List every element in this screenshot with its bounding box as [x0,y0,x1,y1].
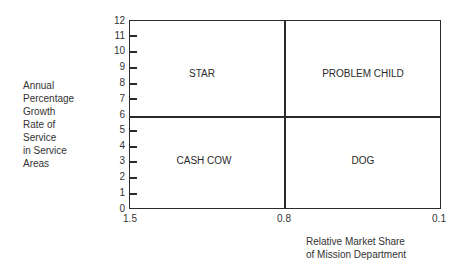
y-tick [129,177,137,179]
horizontal-divider [129,116,441,118]
y-tick [129,146,137,148]
y-tick-label: 4 [105,141,125,151]
x-axis-label-line: Relative Market Share [306,235,406,248]
vertical-divider [284,20,286,209]
y-tick-label: 10 [105,46,125,56]
quadrant-star: STAR [189,68,215,80]
y-axis-label-line: Rate of [23,118,74,131]
x-tick-label: 0.1 [432,213,446,225]
quadrant-problem-child: PROBLEM CHILD [322,68,404,80]
y-tick-label: 5 [105,125,125,135]
quadrant-cash-cow: CASH COW [177,155,232,167]
x-axis-label: Relative Market Share of Mission Departm… [306,235,406,261]
quadrant-dog: DOG [352,155,375,167]
y-tick [129,130,137,132]
y-tick-label: 0 [105,204,125,214]
y-tick-label: 3 [105,156,125,166]
y-axis-label-line: Areas [23,157,74,170]
y-tick-label: 11 [105,31,125,41]
y-tick-label: 1 [105,188,125,198]
y-axis-label: Annual Percentage Growth Rate of Service… [23,79,74,170]
y-tick-label: 9 [105,62,125,72]
y-axis-label-line: Service [23,131,74,144]
y-tick-label: 12 [105,16,125,26]
x-axis-label-line: of Mission Department [306,248,406,261]
x-tick-label: 1.5 [123,213,137,225]
y-tick [129,67,137,69]
y-axis-label-line: Growth [23,105,74,118]
y-tick-label: 6 [105,110,125,120]
y-tick [129,35,137,37]
y-tick [129,193,137,195]
y-tick [129,98,137,100]
y-tick-label: 2 [105,172,125,182]
y-axis-label-line: in Service [23,144,74,157]
y-tick-label: 7 [105,94,125,104]
y-axis-label-line: Percentage [23,92,74,105]
x-tick-label: 0.8 [277,213,291,225]
y-tick [129,161,137,163]
y-axis-label-line: Annual [23,79,74,92]
y-tick-label: 8 [105,78,125,88]
y-tick [129,83,137,85]
y-tick [129,51,137,53]
